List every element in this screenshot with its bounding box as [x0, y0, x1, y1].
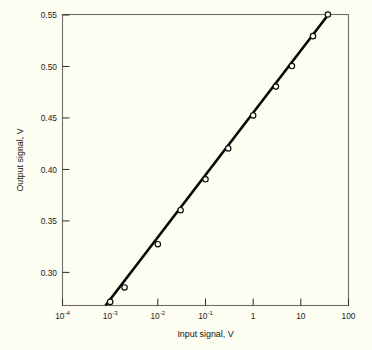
y-ticklabel: 0.50 — [41, 62, 58, 72]
y-ticklabel: 0.55 — [41, 10, 58, 20]
x-ticklabel: 100 — [342, 311, 356, 321]
data-point — [226, 146, 231, 151]
data-point — [203, 177, 208, 182]
y-ticklabel: 0.45 — [41, 113, 58, 123]
chart-svg: 0.55 0.50 0.45 0.40 0.35 0.30 10-4 10-3 — [0, 0, 372, 350]
x-axis-title: Input signal, V — [177, 329, 233, 339]
data-point — [155, 242, 160, 247]
data-point — [122, 285, 127, 290]
data-point — [250, 113, 255, 118]
y-ticklabel: 0.40 — [41, 165, 58, 175]
data-point — [289, 63, 294, 68]
data-point — [310, 33, 315, 38]
y-ticklabel: 0.30 — [41, 268, 58, 278]
data-point — [273, 84, 278, 89]
x-ticklabel: 1 — [251, 311, 256, 321]
data-point — [325, 12, 330, 17]
data-point — [107, 299, 112, 304]
figure-background — [0, 0, 372, 350]
chart-figure: 0.55 0.50 0.45 0.40 0.35 0.30 10-4 10-3 — [0, 0, 372, 350]
x-ticklabel: 10 — [296, 311, 306, 321]
y-ticklabel: 0.35 — [41, 216, 58, 226]
data-point — [178, 208, 183, 213]
y-axis-title: Output signal, V — [15, 128, 25, 191]
